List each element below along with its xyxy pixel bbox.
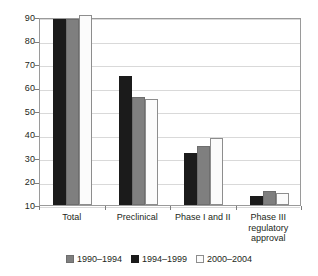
y-axis-tick-label: 60 [9, 84, 35, 93]
legend-swatch-gray [66, 255, 74, 263]
bar-group [171, 19, 237, 205]
y-axis-tick-label: 80 [9, 37, 35, 46]
bar [66, 19, 79, 205]
legend-label: 2000–2004 [207, 254, 252, 264]
bar-group [40, 19, 106, 205]
x-axis-tick-mark [236, 206, 237, 210]
bar-set [237, 19, 303, 205]
x-axis-category-label: Preclinical [105, 212, 171, 223]
y-axis-tick-label: 70 [9, 61, 35, 70]
legend-item: 1994–1999 [131, 254, 187, 264]
bar [145, 99, 158, 205]
bar-group [106, 19, 172, 205]
bar [119, 76, 132, 205]
legend-item: 2000–2004 [196, 254, 252, 264]
y-axis-tick-label: 40 [9, 131, 35, 140]
legend-item: 1990–1994 [66, 254, 122, 264]
chart-legend: 1990–19941994–19992000–2004 [0, 254, 318, 264]
bar [263, 191, 276, 205]
legend-label: 1994–1999 [142, 254, 187, 264]
x-axis-category-label: Total [39, 212, 105, 223]
bar [184, 153, 197, 205]
bar [197, 146, 210, 205]
x-axis-category-label: Phase I and II [170, 212, 236, 223]
x-axis-tick-mark [39, 206, 40, 210]
plot-area [39, 18, 301, 206]
bar-set [171, 19, 237, 205]
x-axis-tick-mark [170, 206, 171, 210]
bar [132, 97, 145, 205]
y-axis-tick-label: 20 [9, 178, 35, 187]
legend-label: 1990–1994 [77, 254, 122, 264]
bar-chart: 102030405060708090 TotalPreclinicalPhase… [0, 0, 318, 276]
bar [276, 193, 289, 205]
bar-set [106, 19, 172, 205]
x-axis-category-label: Phase IIIregulatoryapproval [236, 212, 302, 244]
bar [79, 15, 92, 205]
x-axis-tick-mark [105, 206, 106, 210]
legend-swatch-black [131, 255, 139, 263]
legend-swatch-white [196, 255, 204, 263]
y-axis-tick-label: 30 [9, 155, 35, 164]
x-axis-tick-mark [301, 206, 302, 210]
bar [250, 196, 263, 205]
y-axis-tick-label: 90 [9, 14, 35, 23]
y-axis-tick-label: 50 [9, 108, 35, 117]
bar [210, 138, 223, 205]
bar [53, 19, 66, 205]
y-axis-tick-label: 10 [9, 202, 35, 211]
bar-set [40, 19, 106, 205]
bar-group [237, 19, 303, 205]
